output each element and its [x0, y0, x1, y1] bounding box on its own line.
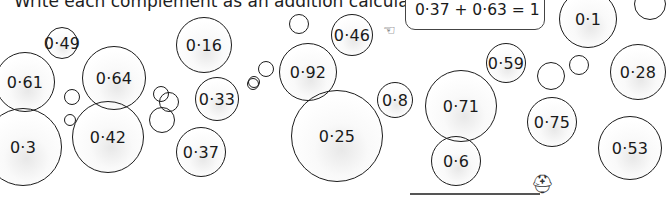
bubble-value: 0·49	[44, 34, 80, 53]
bubble-value: 0·46	[334, 26, 370, 45]
empty-bubble	[64, 114, 76, 126]
bubble-value: 0·6	[443, 152, 469, 171]
number-bubble: 0·42	[72, 101, 144, 173]
bubble-value: 0·42	[90, 128, 126, 147]
bubble-value: 0·64	[96, 69, 132, 88]
bubble-value: 0·28	[620, 63, 656, 82]
empty-bubble	[537, 62, 565, 90]
empty-bubble	[569, 55, 589, 75]
bubble-value: 0·53	[612, 139, 648, 158]
diver-illustration-icon: ⛑	[531, 173, 554, 194]
number-bubble: 0·59	[486, 43, 526, 83]
number-bubble: 0·53	[598, 116, 662, 180]
bubble-value: 0·37	[183, 143, 219, 162]
bubble-value: 0·33	[199, 90, 235, 109]
empty-bubble	[258, 61, 274, 77]
number-bubble: 0·16	[176, 17, 232, 73]
instruction-text: Write each complement as an addition cal…	[14, 0, 447, 11]
bubble-value: 0·92	[290, 63, 326, 82]
empty-bubble	[289, 14, 309, 34]
bubble-value: 0·61	[7, 73, 43, 92]
number-bubble: 0·33	[195, 77, 239, 121]
bubble-value: 0·25	[319, 127, 355, 146]
number-bubble: 0·1	[559, 0, 617, 48]
empty-bubble	[247, 78, 259, 90]
bubble-value: 0·16	[186, 36, 222, 55]
bubble-value: 0·8	[382, 91, 408, 110]
bubble-value: 0·59	[488, 54, 524, 73]
number-bubble: 0·46	[331, 14, 373, 56]
bubble-value: 0·3	[10, 138, 36, 157]
number-bubble: 0·61	[0, 52, 55, 112]
number-bubble: 0·37	[176, 127, 226, 177]
bubble-value: 0·1	[575, 10, 601, 29]
example-calculation: 0·37 + 0·63 = 1	[415, 1, 540, 19]
ground-line	[410, 193, 540, 195]
number-bubble: 0·71	[425, 70, 497, 142]
number-bubble: 0·6	[431, 136, 481, 186]
number-bubble: 0·49	[46, 27, 78, 59]
bubble-value: 0·75	[534, 113, 570, 132]
empty-bubble	[64, 89, 80, 105]
number-bubble: 0·8	[377, 82, 413, 118]
number-bubble: 0·28	[610, 44, 666, 100]
number-bubble: 0·25	[291, 90, 383, 182]
pointing-hand-icon: ☜	[383, 22, 396, 38]
empty-bubble	[149, 107, 175, 133]
empty-bubble	[634, 0, 666, 20]
example-speech-bubble: 0·37 + 0·63 = 1	[405, 0, 545, 30]
bubble-value: 0·71	[443, 97, 479, 116]
number-bubble: 0·64	[82, 46, 146, 110]
number-bubble: 0·75	[527, 97, 577, 147]
number-bubble: 0·3	[0, 108, 62, 186]
